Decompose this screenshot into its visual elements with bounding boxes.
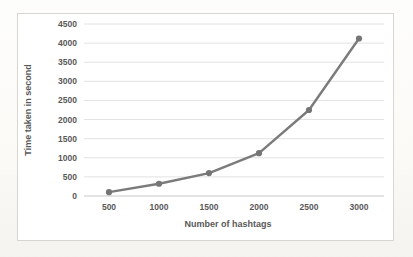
x-axis-title: Number of hashtags (184, 219, 271, 229)
data-point-marker (206, 170, 212, 176)
y-tick-label: 4000 (58, 38, 77, 48)
x-tick-label: 1000 (150, 202, 169, 212)
y-tick-label: 3000 (58, 76, 77, 86)
y-axis-tick-labels: 050010001500200025003000350040004500 (58, 19, 77, 201)
y-axis-title: Time taken in second (23, 64, 33, 155)
data-point-marker (356, 35, 362, 41)
gridlines (84, 24, 384, 196)
data-point-marker (306, 107, 312, 113)
x-tick-label: 1500 (200, 202, 219, 212)
data-point-marker (156, 181, 162, 187)
data-series (106, 35, 362, 195)
x-tick-label: 2500 (300, 202, 319, 212)
series-line (109, 39, 359, 193)
page-background: 050010001500200025003000350040004500 500… (0, 0, 413, 257)
x-tick-label: 500 (102, 202, 116, 212)
chart-canvas: 050010001500200025003000350040004500 500… (18, 14, 393, 240)
data-point-marker (256, 150, 262, 156)
y-tick-label: 500 (63, 172, 77, 182)
y-tick-label: 4500 (58, 19, 77, 29)
data-point-marker (106, 189, 112, 195)
x-tick-label: 3000 (350, 202, 369, 212)
y-tick-label: 0 (72, 191, 77, 201)
line-chart: 050010001500200025003000350040004500 500… (17, 13, 394, 241)
x-axis-tick-labels: 50010001500200025003000 (102, 202, 369, 212)
y-tick-label: 1000 (58, 153, 77, 163)
y-tick-label: 2500 (58, 95, 77, 105)
x-tick-label: 2000 (250, 202, 269, 212)
y-tick-label: 1500 (58, 134, 77, 144)
y-tick-label: 3500 (58, 57, 77, 67)
y-tick-label: 2000 (58, 115, 77, 125)
